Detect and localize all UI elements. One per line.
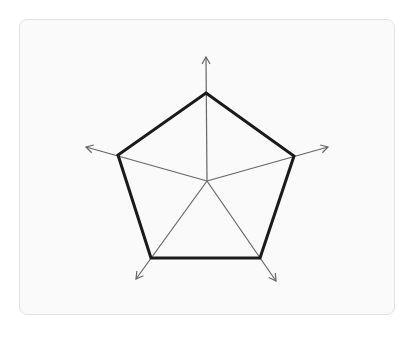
axis-bottom-left	[136, 181, 207, 279]
axis-right	[207, 147, 328, 181]
axis-bottom-right	[207, 181, 276, 281]
radar-diagram	[0, 0, 416, 338]
axis-left	[86, 147, 207, 181]
axis-top	[206, 57, 207, 181]
